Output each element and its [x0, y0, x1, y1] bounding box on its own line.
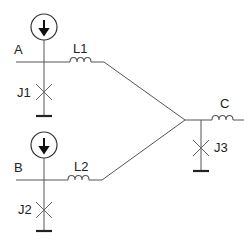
inductor-l3-icon — [212, 116, 233, 121]
node-label-a: A — [14, 42, 23, 57]
inductor-label-l1: L1 — [73, 41, 87, 56]
inductor-l2-icon — [68, 176, 89, 181]
node-label-b: B — [14, 160, 23, 175]
branch-b — [16, 120, 185, 231]
junction-label-j1: J1 — [17, 85, 31, 100]
junction-label-j3: J3 — [214, 140, 228, 155]
node-label-c: C — [220, 96, 229, 111]
wire-b-to-junction — [89, 120, 185, 180]
junction-label-j2: J2 — [18, 202, 32, 217]
wire-a-to-junction — [91, 62, 185, 120]
inductor-label-l2: L2 — [74, 159, 88, 174]
inductor-l1-icon — [70, 58, 91, 63]
branch-a — [16, 14, 185, 120]
circuit-diagram: A L1 J1 B L2 J2 C J3 — [0, 0, 244, 241]
